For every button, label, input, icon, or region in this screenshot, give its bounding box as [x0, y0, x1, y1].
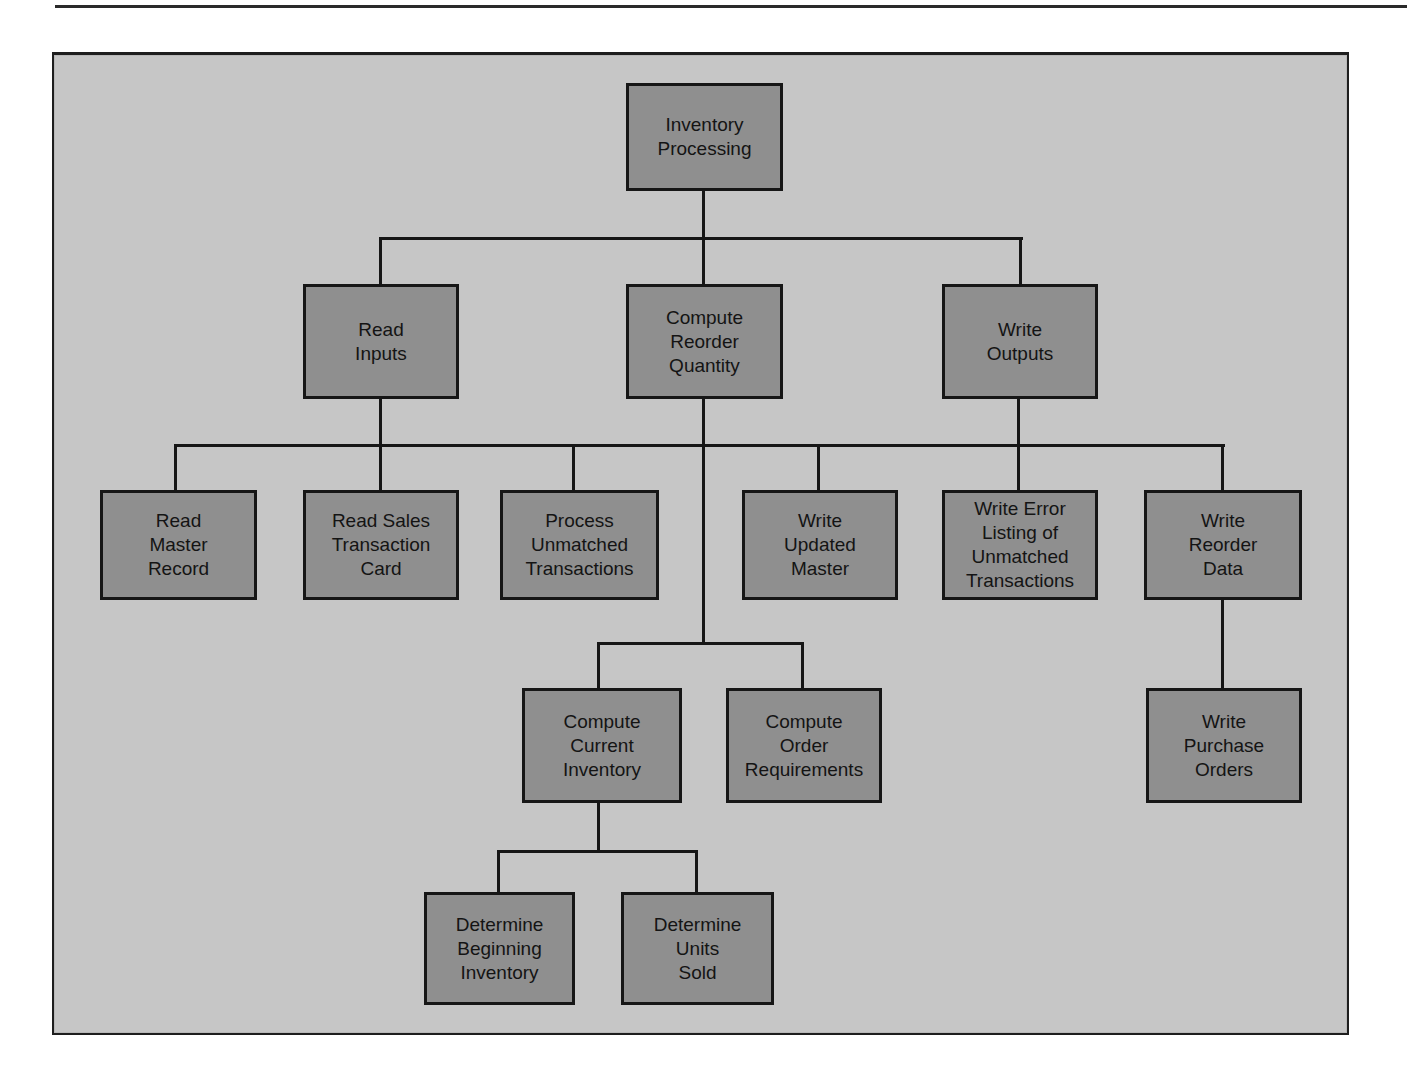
- connector-level1-bus: [379, 237, 1023, 240]
- connector-compute-current-down: [597, 802, 600, 852]
- connector-level2-bus: [174, 444, 1225, 447]
- connector-to-write-purchase-orders: [1221, 599, 1224, 689]
- node-determine-beginning-inventory[interactable]: Determine Beginning Inventory: [424, 892, 575, 1005]
- node-write-purchase-orders[interactable]: Write Purchase Orders: [1146, 688, 1302, 803]
- connector-to-determine-beginning: [497, 850, 500, 893]
- connector-to-compute-reorder: [702, 237, 705, 285]
- node-write-updated-master[interactable]: Write Updated Master: [742, 490, 898, 600]
- node-read-inputs[interactable]: Read Inputs: [303, 284, 459, 399]
- connector-to-read-sales-card: [379, 444, 382, 491]
- page-header-rule: [55, 5, 1407, 8]
- connector-to-read-master-record: [174, 444, 177, 491]
- connector-to-read-inputs: [379, 237, 382, 285]
- connector-compute-reorder-down: [702, 398, 705, 644]
- connector-to-write-updated-master: [817, 444, 820, 491]
- node-read-master-record[interactable]: Read Master Record: [100, 490, 257, 600]
- connector-to-write-outputs: [1019, 237, 1022, 285]
- node-write-outputs[interactable]: Write Outputs: [942, 284, 1098, 399]
- node-compute-reorder-quantity[interactable]: Compute Reorder Quantity: [626, 284, 783, 399]
- connector-to-write-reorder-data: [1221, 444, 1224, 491]
- connector-level4-bus: [497, 850, 698, 853]
- connector-write-outputs-down: [1017, 398, 1020, 446]
- connector-read-inputs-down: [379, 398, 382, 446]
- connector-to-process-unmatched: [572, 444, 575, 491]
- node-compute-current-inventory[interactable]: Compute Current Inventory: [522, 688, 682, 803]
- node-write-error-listing[interactable]: Write Error Listing of Unmatched Transac…: [942, 490, 1098, 600]
- connector-level3-bus: [597, 642, 804, 645]
- connector-to-compute-current-inventory: [597, 642, 600, 689]
- node-read-sales-transaction-card[interactable]: Read Sales Transaction Card: [303, 490, 459, 600]
- node-inventory-processing[interactable]: Inventory Processing: [626, 83, 783, 191]
- connector-to-compute-order-requirements: [801, 642, 804, 689]
- connector-root-down: [702, 190, 705, 239]
- node-write-reorder-data[interactable]: Write Reorder Data: [1144, 490, 1302, 600]
- node-compute-order-requirements[interactable]: Compute Order Requirements: [726, 688, 882, 803]
- node-process-unmatched-transactions[interactable]: Process Unmatched Transactions: [500, 490, 659, 600]
- node-determine-units-sold[interactable]: Determine Units Sold: [621, 892, 774, 1005]
- connector-to-determine-units-sold: [695, 850, 698, 893]
- connector-to-write-error-listing: [1017, 444, 1020, 491]
